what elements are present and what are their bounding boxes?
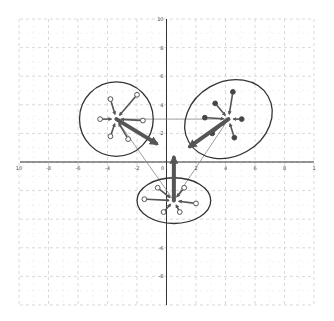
cluster-diagram: 10-8-6-4-2024681108642-6-8	[0, 0, 334, 321]
y-tick-label: -6	[159, 245, 164, 251]
y-tick-label: 8	[160, 45, 163, 51]
y-tick-label: 6	[160, 73, 163, 79]
data-point	[239, 117, 244, 122]
data-point	[230, 90, 235, 95]
data-point	[232, 135, 237, 140]
x-tick-label: -4	[105, 165, 110, 171]
y-tick-label: 4	[160, 102, 163, 108]
data-point	[177, 210, 182, 215]
data-point	[182, 185, 187, 190]
y-tick-label: 2	[160, 130, 163, 136]
data-point	[108, 97, 113, 102]
point-arrow	[147, 199, 169, 200]
point-arrow	[217, 105, 225, 115]
point-arrow	[176, 205, 178, 210]
data-point	[213, 101, 218, 106]
data-point	[194, 201, 199, 206]
x-tick-label: 4	[224, 165, 227, 171]
data-point	[142, 197, 147, 202]
x-tick-label: 6	[253, 165, 256, 171]
data-point	[135, 92, 140, 97]
x-tick-label: -8	[46, 165, 51, 171]
axes: 10-8-6-4-2024681108642-6-8	[16, 16, 316, 305]
point-arrow	[179, 201, 194, 203]
point-arrow	[120, 97, 136, 116]
data-point	[161, 210, 166, 215]
connector-line	[116, 119, 174, 201]
data-point	[98, 117, 103, 122]
point-arrow	[111, 101, 115, 114]
x-tick-label: -6	[76, 165, 81, 171]
x-tick-label: 0	[161, 165, 164, 171]
x-tick-label: -2	[135, 165, 140, 171]
point-arrow	[111, 124, 114, 134]
point-arrow	[121, 119, 140, 120]
y-tick-label: 10	[157, 16, 163, 22]
data-point	[126, 137, 131, 142]
point-arrow	[229, 94, 232, 114]
point-arrow	[207, 118, 223, 119]
x-tick-label: 10	[16, 165, 22, 171]
left-cluster	[79, 82, 156, 156]
clusters	[79, 64, 286, 223]
data-point	[141, 118, 146, 123]
x-tick-label: 8	[283, 165, 286, 171]
data-point	[202, 115, 207, 120]
data-point	[108, 134, 113, 139]
y-tick-label: -8	[159, 273, 164, 279]
data-point	[155, 185, 160, 190]
x-tick-label: 1	[312, 165, 315, 171]
